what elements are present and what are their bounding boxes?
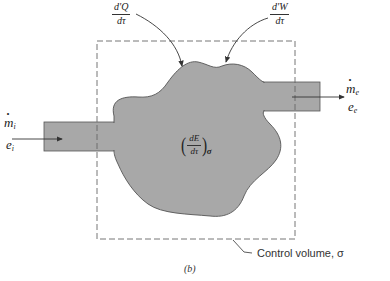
exit-mass-flow-symbol: m [346,82,355,95]
heat-rate-denominator: dτ [117,15,126,27]
energy-change-subscript: σ [207,146,212,156]
energy-change-denominator: dτ [190,146,198,156]
work-transfer-arrow [226,18,268,62]
control-volume-label: Control volume, σ [257,247,344,259]
inlet-mass-flow-symbol: m [4,116,13,129]
energy-change-fraction: dE dτ [187,134,201,156]
work-rate-denominator: dτ [275,15,284,27]
exit-energy-subscript: e [354,106,358,115]
inlet-energy-subscript: i [12,144,14,153]
heat-rate-label: d'Q dτ [112,2,130,26]
work-rate-numerator: d'W [270,2,289,15]
inlet-energy-label: ei [6,138,14,153]
work-rate-label: d'W dτ [270,2,289,26]
left-paren: ( [181,134,186,156]
figure-caption: (b) [184,263,196,274]
inlet-mass-flow-label: mi [4,116,16,131]
exit-mass-flow-subscript: e [355,88,359,97]
heat-rate-numerator: d'Q [112,2,130,15]
exit-energy-label: ee [348,100,357,115]
heat-transfer-arrow [136,14,182,66]
energy-change-numerator: dE [187,134,201,145]
energy-change-label: ( dE dτ ) σ [180,134,212,156]
inlet-mass-flow-subscript: i [13,122,15,131]
exit-mass-flow-label: me [346,82,359,97]
control-volume-pointer [233,240,252,253]
right-paren: ) [202,134,207,156]
